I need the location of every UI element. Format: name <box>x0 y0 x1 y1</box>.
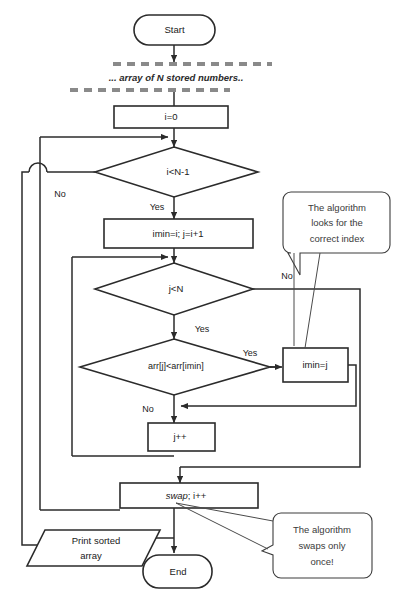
callout-swaps-once-line3: once! <box>310 556 333 567</box>
callout-correct-index-line1: The algorithm <box>308 202 366 213</box>
edge-label-compare-yes: Yes <box>243 348 258 358</box>
flowchart-svg: Start ... array of N stored numbers.. i=… <box>0 0 399 602</box>
node-swap-rest: ; i++ <box>188 490 207 501</box>
node-swap-italic: swap <box>166 490 188 501</box>
callout-swaps-once-line2: swaps only <box>299 540 346 551</box>
flowchart-canvas: Start ... array of N stored numbers.. i=… <box>0 0 399 602</box>
node-print-label-line2: array <box>80 550 102 561</box>
callout-swaps-once-tail-lower <box>176 503 268 549</box>
node-cond-outer-label: i<N-1 <box>167 166 190 177</box>
edge-label-outer-no: No <box>54 189 66 199</box>
callout-correct-index-line3: correct index <box>310 233 365 244</box>
edge-outer-no-down-to-print <box>22 172 37 545</box>
node-start-label: Start <box>164 24 184 35</box>
node-incr-j-label: j++ <box>172 431 187 442</box>
node-cond-inner-label: j<N <box>168 283 184 294</box>
edge-label-outer-yes: Yes <box>150 202 165 212</box>
node-swap-label: swap; i++ <box>166 490 207 501</box>
callout-correct-index-tail-right <box>305 253 320 348</box>
edge-label-inner-yes: Yes <box>195 324 210 334</box>
comment-label: ... array of N stored numbers.. <box>109 72 244 83</box>
node-inner-init-label: imin=i; j=i+1 <box>153 228 204 239</box>
node-end-label: End <box>170 566 187 577</box>
node-init-i-label: i=0 <box>165 111 178 122</box>
callout-correct-index-line2: looks for the <box>311 217 363 228</box>
node-assign-imin-label: imin=j <box>302 359 327 370</box>
edge-label-inner-no: No <box>281 271 293 281</box>
node-print-label-line1: Print sorted <box>72 535 121 546</box>
edge-label-compare-no: No <box>142 404 154 414</box>
callout-swaps-once-line1: The algorithm <box>293 524 351 535</box>
edge-outer-no-hop <box>29 163 47 172</box>
node-cond-compare-label: arr[j]<arr[imin] <box>148 361 204 371</box>
